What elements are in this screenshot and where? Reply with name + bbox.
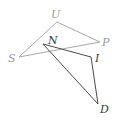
label-i: I [94, 52, 100, 65]
label-n: N [47, 34, 58, 47]
label-p: P [101, 36, 110, 49]
label-s: S [8, 52, 16, 65]
triangle-nid [43, 44, 98, 104]
label-u: U [51, 8, 61, 21]
triangle-sup [19, 22, 100, 57]
geometry-diagram: U S P N I D [0, 0, 118, 120]
label-d: D [99, 103, 109, 116]
